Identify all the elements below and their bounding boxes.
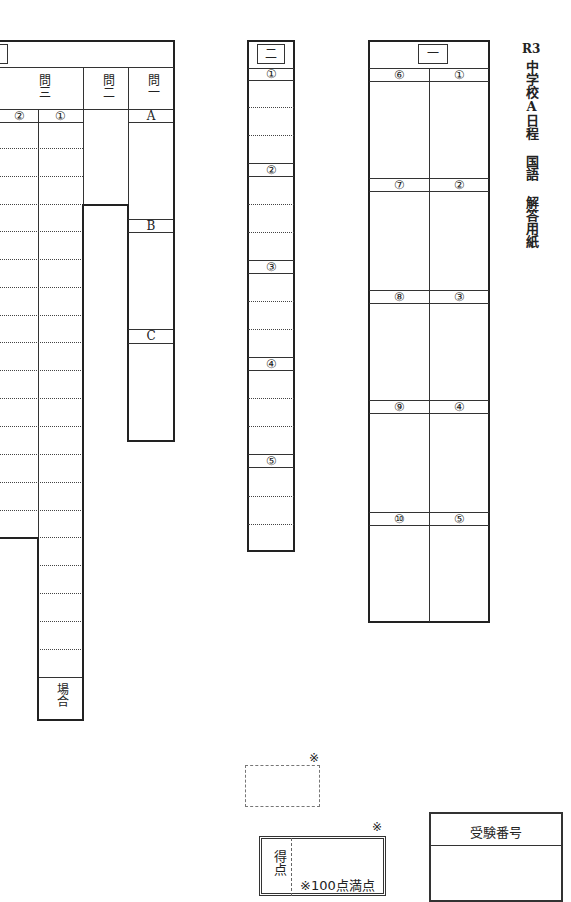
q3-right-border xyxy=(82,205,84,721)
section-3-right-border xyxy=(173,40,175,442)
q1-part-b-label: B xyxy=(129,220,173,232)
item-label: ② xyxy=(248,164,294,176)
divider xyxy=(0,67,174,68)
answer-cell-q2[interactable] xyxy=(84,110,127,203)
answer-cell-1-6[interactable] xyxy=(369,82,429,177)
item-label: ② xyxy=(430,179,489,191)
q3-label: 問三 xyxy=(35,74,52,98)
answer-cell-2-1[interactable] xyxy=(248,81,294,162)
answer-cell-1-2[interactable] xyxy=(430,192,489,289)
answer-cell-1-8[interactable] xyxy=(369,304,429,399)
item-label: ⑩ xyxy=(370,513,429,525)
page-title: 中学校A日程 国語 解答用紙 xyxy=(522,60,541,248)
answer-cell-q3-1[interactable] xyxy=(39,123,82,676)
q3-part-2-label: ② xyxy=(0,110,38,122)
q2-label: 問二 xyxy=(99,74,116,98)
answer-cell-q3-2[interactable] xyxy=(0,123,37,537)
answer-cell-1-7[interactable] xyxy=(369,192,429,289)
score-label: 得点 xyxy=(270,850,289,876)
title-year: R3 xyxy=(522,42,540,56)
q2-bottom-border xyxy=(82,204,129,206)
partial-score-box[interactable] xyxy=(245,765,320,807)
answer-cell-2-3[interactable] xyxy=(248,274,294,356)
mark-note-1: ※ xyxy=(309,751,319,765)
item-label: ⑥ xyxy=(370,69,429,81)
item-label: ① xyxy=(248,68,294,80)
exam-number-input[interactable] xyxy=(431,846,561,893)
q1-part-c-label: C xyxy=(129,330,173,342)
section-3-top-border xyxy=(0,40,175,42)
item-label: ③ xyxy=(248,261,294,273)
item-label: ④ xyxy=(248,358,294,370)
item-label: ⑧ xyxy=(370,291,429,303)
q3-part-2-bottom xyxy=(0,537,39,539)
score-divider xyxy=(291,838,292,896)
divider xyxy=(38,677,83,678)
answer-cell-2-4[interactable] xyxy=(248,371,294,453)
exam-number-label: 受験番号 xyxy=(431,822,561,841)
item-label: ⑤ xyxy=(430,513,489,525)
answer-cell-1-9[interactable] xyxy=(369,414,429,511)
section-3-number-box xyxy=(0,44,8,64)
answer-cell-2-5[interactable] xyxy=(248,468,294,550)
item-label: ③ xyxy=(430,291,489,303)
answer-cell-q1-b[interactable] xyxy=(129,233,173,328)
item-label: ⑨ xyxy=(370,401,429,413)
q3-footer-label: 場合 xyxy=(53,683,70,707)
item-label: ① xyxy=(430,69,489,81)
answer-cell-1-3[interactable] xyxy=(430,304,489,399)
answer-cell-1-1[interactable] xyxy=(430,82,489,177)
answer-cell-q1-a[interactable] xyxy=(129,123,173,218)
answer-cell-1-5[interactable] xyxy=(430,526,489,621)
section-2-number: 二 xyxy=(257,48,285,60)
q1-label: 問一 xyxy=(144,74,161,98)
q1-part-a-label: A xyxy=(129,110,173,122)
item-label: ⑤ xyxy=(248,455,294,467)
q3-bottom-border xyxy=(37,719,84,721)
item-label: ④ xyxy=(430,401,489,413)
q3-part-1-label: ① xyxy=(38,110,83,122)
answer-cell-1-4[interactable] xyxy=(430,414,489,511)
answer-cell-1-10[interactable] xyxy=(369,526,429,621)
section-1-number: 一 xyxy=(418,48,448,60)
answer-cell-q1-c[interactable] xyxy=(129,344,173,439)
mark-note-2: ※ xyxy=(372,820,382,834)
answer-cell-2-2[interactable] xyxy=(248,177,294,259)
score-input[interactable] xyxy=(293,839,383,893)
q1-bottom-border xyxy=(127,440,175,442)
item-label: ⑦ xyxy=(370,179,429,191)
